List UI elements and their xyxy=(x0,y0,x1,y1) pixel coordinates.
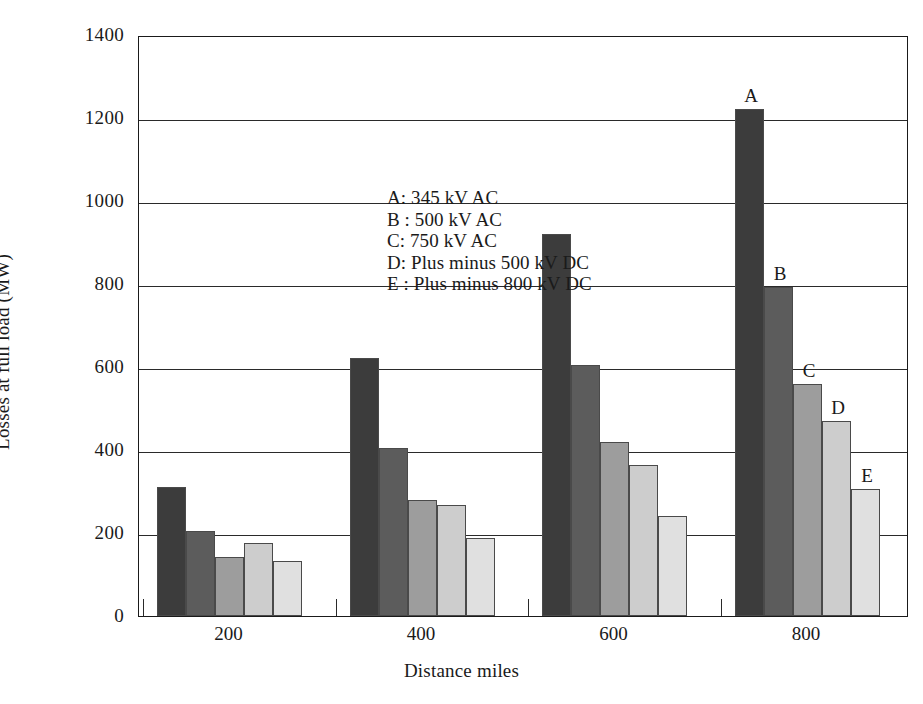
x-axis-tick-mark xyxy=(721,599,722,616)
bar-d-600 xyxy=(629,465,658,616)
x-axis-tick-label: 400 xyxy=(407,623,436,645)
bar-b-600 xyxy=(571,365,600,616)
bar-label-b: B xyxy=(774,263,787,285)
y-axis-tick-label: 1400 xyxy=(85,24,124,46)
bar-c-200 xyxy=(215,557,244,616)
y-axis-tick-label: 0 xyxy=(114,605,124,627)
legend-item-1: A: 345 kV AC xyxy=(387,187,592,209)
x-axis-title-label: Distance miles xyxy=(404,660,519,681)
y-axis-tick-labels: 0200400600800100012001400 xyxy=(0,0,132,704)
x-axis-tick-labels: 200400600800 xyxy=(138,623,908,653)
bar-label-c: C xyxy=(803,360,816,382)
bar-d-400 xyxy=(437,505,466,616)
bar-e-200 xyxy=(273,561,302,616)
bar-b-200 xyxy=(186,531,215,616)
x-axis-tick-mark xyxy=(528,599,529,616)
bar-d-800 xyxy=(822,421,851,616)
legend-item-5: E : Plus minus 800 kV DC xyxy=(387,273,592,295)
y-axis-tick-label: 400 xyxy=(95,439,124,461)
bar-label-d: D xyxy=(831,397,845,419)
bar-a-400 xyxy=(350,358,379,616)
bar-d-200 xyxy=(244,543,273,616)
x-axis-title: Distance miles xyxy=(0,660,923,682)
y-axis-tick-label: 800 xyxy=(95,273,124,295)
bar-chart: Losses at full load (MW) 020040060080010… xyxy=(0,0,923,704)
bar-c-600 xyxy=(600,442,629,616)
bar-b-400 xyxy=(379,448,408,616)
bar-b-800 xyxy=(764,287,793,616)
legend-item-3: C: 750 kV AC xyxy=(387,230,592,252)
x-axis-tick-label: 800 xyxy=(792,623,821,645)
gridline xyxy=(139,120,907,121)
bar-a-200 xyxy=(157,487,186,616)
bar-label-e: E xyxy=(861,465,873,487)
x-axis-tick-mark xyxy=(143,599,144,616)
x-axis-tick-label: 600 xyxy=(599,623,628,645)
x-axis-tick-mark xyxy=(336,599,337,616)
bar-label-a: A xyxy=(744,85,758,107)
legend-item-2: B : 500 kV AC xyxy=(387,209,592,231)
bar-c-400 xyxy=(408,500,437,616)
y-axis-tick-label: 200 xyxy=(95,522,124,544)
bar-a-800 xyxy=(735,109,764,616)
legend: A: 345 kV ACB : 500 kV ACC: 750 kV ACD: … xyxy=(387,187,592,295)
bar-e-400 xyxy=(466,538,495,616)
y-axis-tick-label: 600 xyxy=(95,356,124,378)
y-axis-tick-label: 1000 xyxy=(85,190,124,212)
plot-area: ABCDE A: 345 kV ACB : 500 kV ACC: 750 kV… xyxy=(138,36,908,617)
legend-item-4: D: Plus minus 500 kV DC xyxy=(387,252,592,274)
y-axis-tick-label: 1200 xyxy=(85,107,124,129)
bar-c-800 xyxy=(793,384,822,616)
bar-e-600 xyxy=(658,516,687,616)
x-axis-tick-label: 200 xyxy=(214,623,243,645)
bar-e-800 xyxy=(851,489,880,616)
